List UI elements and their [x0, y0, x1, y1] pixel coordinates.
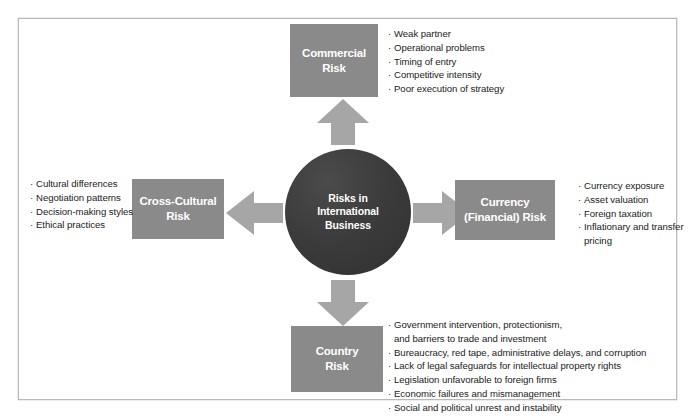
bullet-item-text: Currency exposure [584, 179, 693, 193]
arrow-down-icon [317, 280, 369, 326]
bullet-item-text: Legislation unfavorable to foreign firms [394, 373, 688, 387]
bullet-item-text: Timing of entry [394, 55, 598, 69]
bullet-item: ·Economic failures and mismanagement [388, 387, 688, 401]
node-box-commercial-risk: Commercial Risk [290, 24, 378, 97]
bullet-item-text: Bureaucracy, red tape, administrative de… [394, 346, 688, 360]
bullet-item-text: Social and political unrest and instabil… [394, 401, 688, 415]
bullet-item: ·Weak partner [388, 27, 598, 41]
bullet-item-text: Asset valuation [584, 193, 693, 207]
bullet-item: ·Decision-making styles [30, 205, 150, 219]
bullet-item: ·Poor execution of strategy [388, 82, 598, 96]
bullet-list-cross-cultural-risk: ·Cultural differences·Negotiation patter… [30, 177, 150, 232]
bullet-item: ·Bureaucracy, red tape, administrative d… [388, 346, 688, 360]
bullet-item-text: Government intervention, protectionism, … [394, 318, 688, 346]
bullet-item-text: Operational problems [394, 41, 598, 55]
bullet-item: ·Ethical practices [30, 218, 150, 232]
bullet-item-text: Inflationary and transfer pricing [584, 220, 693, 248]
bullet-item-text: Ethical practices [36, 218, 150, 232]
center-node-risks-in-international-business: Risks in International Business [285, 149, 411, 275]
node-box-currency-financial-risk: Currency (Financial) Risk [455, 180, 555, 240]
node-label-currency-financial-risk: Currency (Financial) Risk [464, 195, 546, 224]
bullet-item: ·Foreign taxation [578, 207, 693, 221]
bullet-item-text: Weak partner [394, 27, 598, 41]
bullet-list-currency-financial-risk: ·Currency exposure·Asset valuation·Forei… [578, 179, 693, 248]
center-node-label: Risks in International Business [317, 192, 379, 233]
bullet-item: ·Inflationary and transfer pricing [578, 220, 693, 248]
bullet-item-text: Economic failures and mismanagement [394, 387, 688, 401]
node-label-country-risk: Country Risk [316, 344, 359, 373]
bullet-item: ·Government intervention, protectionism,… [388, 318, 688, 346]
bullet-item: ·Negotiation patterns [30, 191, 150, 205]
arrow-left-icon [226, 191, 283, 235]
bullet-item-text: Lack of legal safeguards for intellectua… [394, 359, 688, 373]
node-label-commercial-risk: Commercial Risk [302, 46, 366, 75]
bullet-item: ·Legislation unfavorable to foreign firm… [388, 373, 688, 387]
bullet-item: ·Lack of legal safeguards for intellectu… [388, 359, 688, 373]
bullet-item: ·Currency exposure [578, 179, 693, 193]
node-label-cross-cultural-risk: Cross-Cultural Risk [139, 194, 216, 223]
node-box-country-risk: Country Risk [291, 326, 383, 392]
bullet-item-text: Poor execution of strategy [394, 82, 598, 96]
bullet-list-commercial-risk: ·Weak partner·Operational problems·Timin… [388, 27, 598, 96]
bullet-item: ·Competitive intensity [388, 68, 598, 82]
bullet-list-country-risk: ·Government intervention, protectionism,… [388, 318, 688, 415]
bullet-item-text: Cultural differences [36, 177, 150, 191]
diagram-canvas: Risks in International Business Commerci… [0, 0, 697, 417]
arrow-up-icon [317, 99, 369, 145]
bullet-item-text: Decision-making styles [36, 205, 150, 219]
bullet-item: ·Operational problems [388, 41, 598, 55]
bullet-item: ·Asset valuation [578, 193, 693, 207]
bullet-item: ·Timing of entry [388, 55, 598, 69]
bullet-item-text: Foreign taxation [584, 207, 693, 221]
bullet-item: ·Cultural differences [30, 177, 150, 191]
bullet-item-text: Negotiation patterns [36, 191, 150, 205]
bullet-item-text: Competitive intensity [394, 68, 598, 82]
bullet-item: ·Social and political unrest and instabi… [388, 401, 688, 415]
